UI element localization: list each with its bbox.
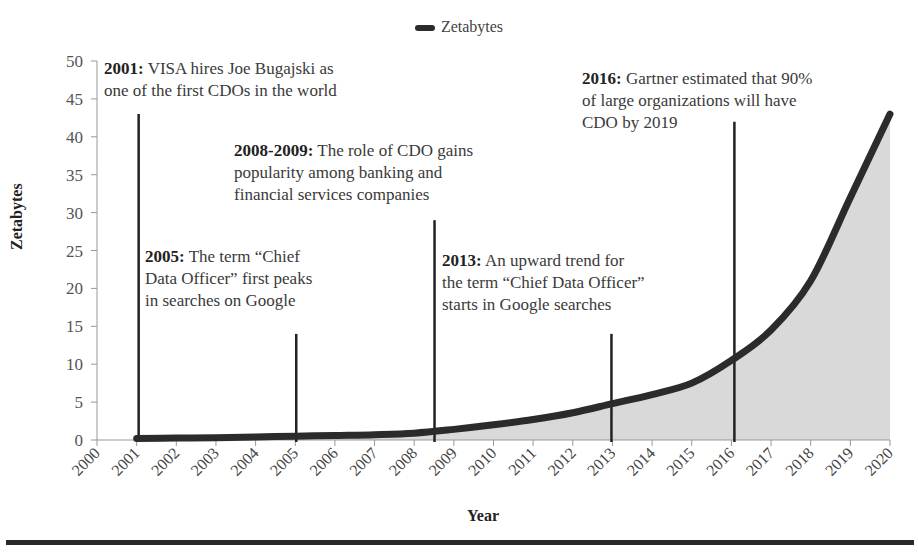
annotation-line: one of the first CDOs in the world xyxy=(104,81,337,100)
annotation-2013: 2013: An upward trend for the term “Chie… xyxy=(442,250,645,316)
y-tick-label: 50 xyxy=(66,52,83,71)
y-tick-label: 30 xyxy=(66,204,83,223)
y-tick-label: 20 xyxy=(66,279,83,298)
x-tick-label: 2020 xyxy=(861,444,896,479)
x-tick-label: 2018 xyxy=(782,444,817,479)
annotation-line: in searches on Google xyxy=(145,291,296,310)
annotation-year: 2013: xyxy=(442,251,482,270)
annotation-line: popularity among banking and xyxy=(234,163,442,182)
x-tick-label: 2008 xyxy=(386,444,421,479)
annotation-year: 2001: xyxy=(104,59,144,78)
x-tick-label: 2015 xyxy=(663,444,698,479)
annotation-2008-2009: 2008-2009: The role of CDO gains popular… xyxy=(234,140,473,206)
annotation-line: The role of CDO gains xyxy=(317,141,473,160)
annotation-line: The term “Chief xyxy=(189,247,300,266)
y-tick-label: 45 xyxy=(66,90,83,109)
bottom-divider-rule xyxy=(6,540,914,545)
y-axis-tick-labels: 05101520253035404550 xyxy=(66,52,83,450)
x-tick-label: 2012 xyxy=(544,444,579,479)
y-tick-label: 10 xyxy=(66,355,83,374)
annotation-line: the term “Chief Data Officer” xyxy=(442,273,645,292)
y-axis-title: Zetabytes xyxy=(8,183,26,250)
annotation-year: 2016: xyxy=(582,69,622,88)
annotation-line: Data Officer” first peaks xyxy=(145,269,312,288)
x-tick-label: 2007 xyxy=(346,444,381,479)
x-tick-label: 2017 xyxy=(743,444,778,479)
x-tick-label: 2009 xyxy=(425,444,460,479)
annotation-line: starts in Google searches xyxy=(442,295,611,314)
x-tick-label: 2011 xyxy=(505,444,539,478)
legend-swatch-icon xyxy=(415,25,435,31)
y-tick-label: 5 xyxy=(75,393,84,412)
y-tick-label: 40 xyxy=(66,128,83,147)
legend-label: Zetabytes xyxy=(441,18,503,35)
annotation-year: 2005: xyxy=(145,247,185,266)
annotation-line: Gartner estimated that 90% xyxy=(626,69,812,88)
x-tick-label: 2014 xyxy=(624,444,659,479)
annotation-year: 2008-2009: xyxy=(234,141,313,160)
x-tick-label: 2004 xyxy=(227,444,262,479)
x-axis-tick-labels: 2000200120022003200420052006200720082009… xyxy=(68,444,896,479)
annotation-line: VISA hires Joe Bugajski as xyxy=(148,59,334,78)
y-tick-label: 15 xyxy=(66,317,83,336)
y-tick-label: 35 xyxy=(66,166,83,185)
x-tick-label: 2002 xyxy=(148,444,183,479)
x-tick-label: 2006 xyxy=(306,444,341,479)
annotation-2016: 2016: Gartner estimated that 90% of larg… xyxy=(582,68,812,134)
x-tick-label: 2001 xyxy=(108,444,143,479)
annotation-line: of large organizations will have xyxy=(582,91,797,110)
legend: Zetabytes xyxy=(0,18,918,36)
x-tick-label: 2003 xyxy=(187,444,222,479)
annotation-2001: 2001: VISA hires Joe Bugajski as one of … xyxy=(104,58,337,102)
x-tick-label: 2016 xyxy=(703,444,738,479)
x-tick-label: 2005 xyxy=(267,444,302,479)
y-tick-label: 25 xyxy=(66,242,83,261)
x-tick-label: 2010 xyxy=(465,444,500,479)
y-tick-label: 0 xyxy=(75,431,84,450)
annotation-line: financial services companies xyxy=(234,185,429,204)
x-tick-label: 2019 xyxy=(822,444,857,479)
annotation-2005: 2005: The term “Chief Data Officer” firs… xyxy=(145,246,312,312)
annotation-line: An upward trend for xyxy=(485,251,624,270)
x-axis-title: Year xyxy=(0,507,918,525)
x-tick-label: 2013 xyxy=(584,444,619,479)
annotation-line: CDO by 2019 xyxy=(582,113,677,132)
